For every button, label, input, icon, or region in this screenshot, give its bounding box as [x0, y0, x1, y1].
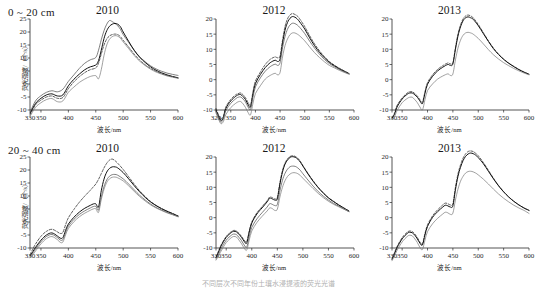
x-axis-label-3: 波长/nm — [0, 262, 202, 272]
y-tick-label: 10 — [206, 184, 214, 192]
x-tick-label: 600 — [349, 252, 360, 260]
y-tick-label: 15 — [20, 41, 28, 49]
x-tick-label: 400 — [63, 114, 74, 122]
x-tick-label: 400 — [422, 252, 433, 260]
panel-title-2012-bottom: 2012 — [186, 142, 362, 154]
x-tick-label: 350 — [397, 114, 408, 122]
x-tick-label: 450 — [91, 114, 102, 122]
x-tick-label: 550 — [498, 114, 509, 122]
chart-svg: -10-50510152025330350400450500550600 — [0, 2, 186, 132]
chart-svg: -10-505101520330350400450500550600 — [362, 140, 537, 270]
x-axis-label-1: 波长/nm — [186, 124, 362, 134]
plot-area-0: -10-50510152025330350400450500550600 — [0, 2, 186, 132]
x-tick-label: 600 — [173, 252, 184, 260]
y-tick-label: 20 — [206, 15, 214, 23]
chart-svg: -10-505101520320350400450500550600 — [186, 2, 362, 132]
panel-20-40cm-2012: 2012 -10-505101520330350400450500550600 … — [186, 140, 362, 270]
y-tick-label: 0 — [23, 80, 27, 88]
y-tick-label: -5 — [207, 91, 213, 99]
x-tick-label: 350 — [397, 252, 408, 260]
spectrum-curve — [30, 174, 178, 256]
y-tick-label: 15 — [382, 31, 390, 39]
y-tick-label: 10 — [382, 184, 390, 192]
x-tick-label: 350 — [36, 252, 47, 260]
y-tick-label: 15 — [206, 169, 214, 177]
x-tick-label: 600 — [173, 114, 184, 122]
x-tick-label: 400 — [247, 252, 258, 260]
x-tick-label: 600 — [524, 252, 535, 260]
panel-title-2013-bottom: 2013 — [362, 142, 537, 154]
x-tick-label: 400 — [250, 114, 261, 122]
y-tick-label: 10 — [382, 46, 390, 54]
x-tick-label: 550 — [498, 252, 509, 260]
panel-row-top: 0 ~ 20 cm 2010 荧光强度/（个/s） -10-5051015202… — [0, 2, 537, 132]
x-tick-label: 450 — [275, 114, 286, 122]
x-tick-label: 350 — [226, 114, 237, 122]
y-tick-label: 5 — [385, 61, 389, 69]
spectrum-curve — [30, 34, 178, 115]
y-tick-label: 20 — [20, 166, 28, 174]
spectrum-curve — [30, 159, 178, 254]
x-tick-label: 500 — [118, 252, 129, 260]
y-tick-label: 15 — [206, 31, 214, 39]
y-tick-label: -5 — [21, 93, 27, 101]
x-tick-label: 550 — [145, 252, 156, 260]
chart-svg: -10-50510152025330350400450500550600 — [0, 140, 186, 270]
spectrum-curve — [30, 177, 178, 258]
y-tick-label: 0 — [209, 214, 213, 222]
plot-area-1: -10-505101520320350400450500550600 — [186, 2, 362, 132]
y-tick-label: 5 — [209, 61, 213, 69]
y-tick-label: -5 — [21, 231, 27, 239]
panel-0-20cm-2012: 2012 -10-505101520320350400450500550600 … — [186, 2, 362, 132]
x-tick-label: 600 — [524, 114, 535, 122]
y-tick-label: 15 — [382, 169, 390, 177]
x-tick-label: 550 — [323, 252, 334, 260]
spectrum-curve — [392, 15, 529, 118]
x-tick-label: 450 — [91, 252, 102, 260]
y-tick-label: 20 — [20, 28, 28, 36]
y-tick-label: -5 — [207, 229, 213, 237]
spectrum-curve — [216, 157, 349, 258]
spectrum-curve — [392, 153, 529, 259]
y-tick-label: 10 — [20, 192, 28, 200]
x-tick-label: 550 — [324, 114, 335, 122]
x-axis-label-5: 波长/nm — [362, 262, 537, 272]
panel-title-2013-top: 2013 — [362, 4, 537, 16]
x-axis-label-0: 波长/nm — [0, 124, 202, 134]
figure-fluorescence-spectra: 0 ~ 20 cm 2010 荧光强度/（个/s） -10-5051015202… — [0, 0, 537, 288]
axis-lines — [392, 19, 529, 110]
x-axis-label-2: 波长/nm — [362, 124, 537, 134]
y-tick-label: 0 — [385, 76, 389, 84]
spectrum-curve — [392, 32, 529, 119]
axis-lines — [30, 19, 178, 110]
x-tick-label: 500 — [298, 252, 309, 260]
plot-area-2: -10-505101520330350400450500550600 — [362, 2, 537, 132]
x-tick-label: 350 — [36, 114, 47, 122]
y-tick-label: 0 — [385, 214, 389, 222]
spectrum-curve — [216, 17, 349, 121]
x-tick-label: 450 — [272, 252, 283, 260]
plot-area-4: -10-505101520330350400450500550600 — [186, 140, 362, 270]
spectrum-curve — [216, 173, 349, 260]
spectrum-curve — [216, 166, 349, 259]
y-tick-label: 5 — [385, 199, 389, 207]
panel-20-40cm-2013: 2013 -10-505101520330350400450500550600 … — [362, 140, 537, 270]
axis-lines — [392, 157, 529, 248]
x-tick-label: 500 — [299, 114, 310, 122]
y-tick-label: 20 — [382, 153, 390, 161]
y-tick-label: 0 — [23, 218, 27, 226]
plot-area-3: -10-50510152025330350400450500550600 — [0, 140, 186, 270]
x-tick-label: 450 — [448, 252, 459, 260]
y-tick-label: 5 — [23, 205, 27, 213]
x-axis-label-4: 波长/nm — [186, 262, 362, 272]
y-tick-label: -5 — [383, 229, 389, 237]
y-tick-label: 20 — [206, 153, 214, 161]
y-tick-label: 0 — [209, 76, 213, 84]
x-tick-label: 400 — [422, 114, 433, 122]
x-tick-label: 500 — [118, 114, 129, 122]
spectrum-curve — [392, 17, 529, 119]
y-tick-label: 10 — [20, 54, 28, 62]
x-tick-label: 600 — [349, 114, 360, 122]
plot-area-5: -10-505101520330350400450500550600 — [362, 140, 537, 270]
panel-0-20cm-2010: 0 ~ 20 cm 2010 荧光强度/（个/s） -10-5051015202… — [0, 2, 186, 132]
